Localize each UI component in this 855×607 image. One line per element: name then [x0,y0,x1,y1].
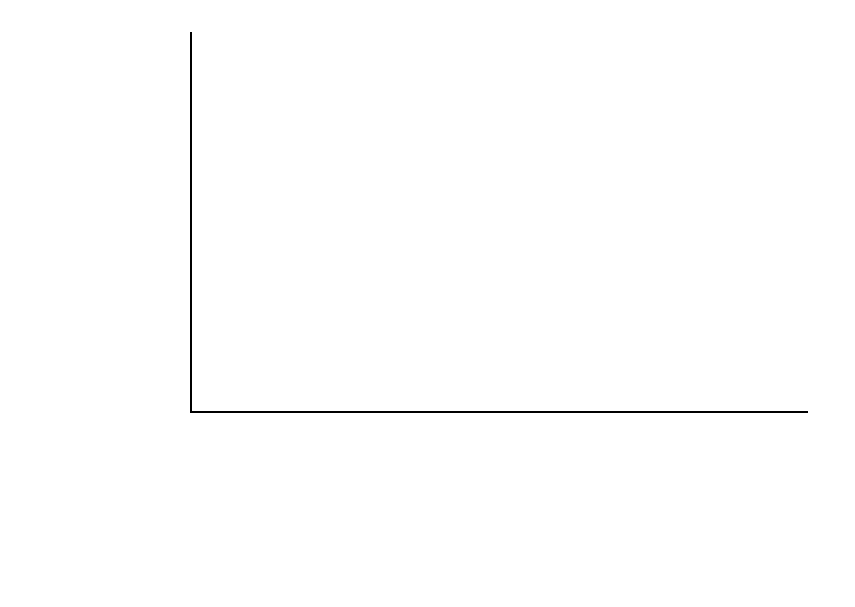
x-axis-tick-labels [0,0,855,607]
stacked-area-chart [0,0,855,607]
